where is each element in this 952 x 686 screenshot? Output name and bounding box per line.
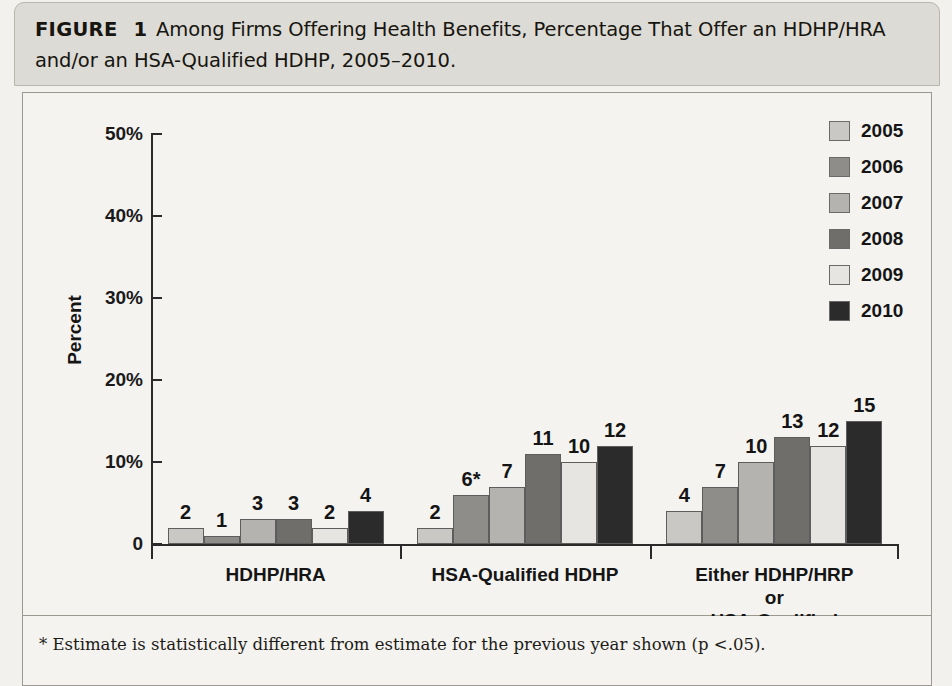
bars-layer: 21332426*71110124710131215: [23, 93, 933, 617]
footnote-band: * Estimate is statistically different fr…: [22, 616, 932, 686]
footnote-text: * Estimate is statistically different fr…: [39, 634, 915, 656]
bar-value-label: 12: [817, 419, 839, 442]
bar-value-label: 11: [532, 427, 553, 450]
bar-value-label: 2: [429, 501, 440, 524]
bar-2005-group-1: [168, 528, 204, 544]
bar-2006-group-1: [204, 536, 240, 544]
legend-item-2005: 2005: [829, 113, 929, 149]
legend-swatch-icon: [829, 301, 850, 321]
legend-label: 2006: [861, 156, 903, 178]
legend-label: 2007: [861, 192, 903, 214]
bar-2010-group-3: [846, 421, 882, 544]
bar-value-label: 3: [252, 492, 263, 515]
bar-value-label: 10: [745, 435, 767, 458]
bar-2009-group-3: [810, 446, 846, 544]
legend-label: 2009: [861, 264, 903, 286]
figure-container: FIGURE1Among Firms Offering Health Benef…: [0, 0, 952, 686]
legend-swatch-icon: [829, 193, 850, 213]
x-axis-group-label: HSA-Qualified HDHP: [432, 563, 619, 586]
legend-label: 2005: [861, 120, 903, 142]
bar-value-label: 7: [501, 460, 512, 483]
bar-2008-group-1: [276, 519, 312, 544]
bar-value-label: 4: [679, 484, 690, 507]
legend-swatch-icon: [829, 265, 850, 285]
bar-2010-group-2: [597, 446, 633, 544]
bar-value-label: 7: [715, 460, 726, 483]
figure-label: FIGURE: [35, 18, 118, 41]
bar-value-label: 2: [180, 501, 191, 524]
bar-2009-group-2: [561, 462, 597, 544]
bar-value-label: 6*: [462, 468, 481, 491]
bar-2008-group-3: [774, 437, 810, 544]
figure-caption: Among Firms Offering Health Benefits, Pe…: [35, 18, 885, 72]
legend-label: 2008: [861, 228, 903, 250]
bar-2006-group-3: [702, 487, 738, 544]
legend-item-2009: 2009: [829, 257, 929, 293]
bar-value-label: 10: [568, 435, 590, 458]
bar-2005-group-2: [417, 528, 453, 544]
bar-value-label: 13: [781, 410, 803, 433]
bar-value-label: 15: [853, 394, 875, 417]
figure-header: FIGURE1Among Firms Offering Health Benef…: [14, 2, 940, 86]
bar-value-label: 2: [324, 501, 335, 524]
bar-value-label: 1: [216, 509, 227, 532]
legend-item-2010: 2010: [829, 293, 929, 329]
legend: 200520062007200820092010: [829, 113, 929, 329]
bar-2007-group-2: [489, 487, 525, 544]
bar-2010-group-1: [348, 511, 384, 544]
chart-panel: Percent 010%20%30%40%50% 21332426*711101…: [22, 92, 932, 616]
bar-value-label: 12: [604, 419, 626, 442]
figure-number: 1: [134, 18, 147, 41]
x-axis-group-label: HDHP/HRA: [226, 563, 326, 586]
legend-item-2007: 2007: [829, 185, 929, 221]
bar-2007-group-1: [240, 519, 276, 544]
legend-swatch-icon: [829, 229, 850, 249]
bar-2008-group-2: [525, 454, 561, 544]
bar-value-label: 4: [360, 484, 371, 507]
bar-value-label: 3: [288, 492, 299, 515]
bar-2009-group-1: [312, 528, 348, 544]
bar-2007-group-3: [738, 462, 774, 544]
bar-2006-group-2: [453, 495, 489, 544]
bar-2005-group-3: [666, 511, 702, 544]
figure-title: FIGURE1Among Firms Offering Health Benef…: [35, 14, 923, 76]
legend-label: 2010: [861, 300, 903, 322]
plot-area: Percent 010%20%30%40%50% 21332426*711101…: [23, 93, 933, 617]
legend-item-2006: 2006: [829, 149, 929, 185]
legend-swatch-icon: [829, 121, 850, 141]
legend-swatch-icon: [829, 157, 850, 177]
legend-item-2008: 2008: [829, 221, 929, 257]
